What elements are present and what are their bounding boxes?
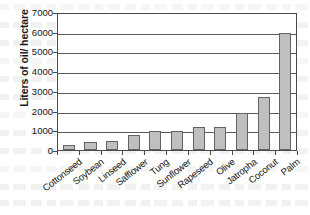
bar-slot — [145, 14, 167, 150]
bar-slot — [253, 14, 275, 150]
y-tick-mark — [53, 92, 57, 93]
bar — [106, 141, 118, 150]
bar-slot — [188, 14, 210, 150]
bar — [149, 131, 161, 150]
y-tick-mark — [53, 52, 57, 53]
bar-series — [58, 14, 296, 150]
bar-slot — [58, 14, 80, 150]
y-tick-mark — [53, 13, 57, 14]
y-tick-label: 7000 — [23, 8, 53, 18]
y-tick-label: 1000 — [23, 126, 53, 136]
y-tick-label: 4000 — [23, 67, 53, 77]
bar-slot — [80, 14, 102, 150]
bar-slot — [209, 14, 231, 150]
x-tick-mark — [297, 151, 298, 155]
plot-area — [57, 13, 297, 151]
bar — [128, 135, 140, 150]
bar — [236, 113, 248, 150]
bar-slot — [166, 14, 188, 150]
y-tick-mark — [53, 33, 57, 34]
bar-slot — [231, 14, 253, 150]
bar — [258, 97, 270, 150]
y-tick-label: 0 — [23, 146, 53, 156]
bar-slot — [123, 14, 145, 150]
bar — [84, 142, 96, 150]
bar-slot — [274, 14, 296, 150]
bar — [193, 127, 205, 150]
bar — [214, 127, 226, 150]
x-category-label: Palm — [279, 156, 302, 178]
bar-slot — [101, 14, 123, 150]
bar — [63, 145, 75, 150]
y-tick-mark — [53, 72, 57, 73]
x-axis-category-labels: CottonseedSoybeanLinseedSafflowerTungSun… — [57, 152, 297, 214]
y-tick-label: 3000 — [23, 87, 53, 97]
y-tick-label: 5000 — [23, 47, 53, 57]
bar — [171, 131, 183, 150]
y-tick-mark — [53, 131, 57, 132]
bar — [279, 33, 291, 150]
oil-yield-bar-chart: Liters of oil/ hectare 01000200030004000… — [0, 0, 310, 215]
y-tick-mark — [53, 151, 57, 152]
y-tick-mark — [53, 112, 57, 113]
y-tick-label: 6000 — [23, 28, 53, 38]
y-tick-label: 2000 — [23, 107, 53, 117]
